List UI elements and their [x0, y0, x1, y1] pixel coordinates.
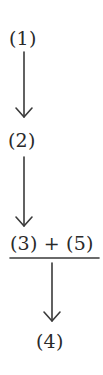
node-3-plus-5-label: (3) + (5): [10, 232, 94, 254]
node-4-label: (4): [36, 330, 64, 352]
arrow-2-to-sum: [16, 157, 32, 226]
arrow-1-to-2: [16, 52, 32, 117]
node-1-label: (1): [9, 27, 37, 49]
diagram-connectors: [0, 0, 103, 375]
arrow-sum-to-4: [44, 263, 60, 321]
node-2-label: (2): [8, 129, 36, 151]
